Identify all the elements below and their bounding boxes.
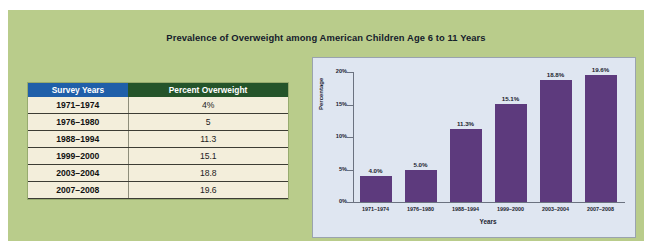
bar-group: 4.0% xyxy=(358,72,394,202)
plot-area: 4.0%5.0%11.3%15.1%18.8%19.6% xyxy=(353,72,623,202)
table-head: Survey Years Percent Overweight xyxy=(28,83,288,97)
slide-panel: Prevalence of Overweight among American … xyxy=(8,10,644,241)
cell-percent-overweight: 19.6 xyxy=(128,182,288,199)
y-axis-tick-label: 0% xyxy=(319,198,347,204)
cell-survey-years: 1999–2000 xyxy=(28,148,128,165)
y-axis-tick-label: 10% xyxy=(319,133,347,139)
table-header-survey-years: Survey Years xyxy=(28,83,128,97)
cell-percent-overweight: 4% xyxy=(128,97,288,114)
x-axis-line xyxy=(353,202,625,203)
x-axis-title: Years xyxy=(353,218,623,225)
table-header-percent-overweight: Percent Overweight xyxy=(128,83,288,97)
cell-survey-years: 2003–2004 xyxy=(28,165,128,182)
slide-root: Prevalence of Overweight among American … xyxy=(0,0,652,248)
bar xyxy=(360,176,392,202)
cell-survey-years: 1976–1980 xyxy=(28,114,128,131)
bar-value-label: 19.6% xyxy=(583,66,619,73)
cell-percent-overweight: 5 xyxy=(128,114,288,131)
cell-percent-overweight: 11.3 xyxy=(128,131,288,148)
table-row: 1988–1994 11.3 xyxy=(28,131,288,148)
bar-group: 11.3% xyxy=(448,72,484,202)
cell-survey-years: 1988–1994 xyxy=(28,131,128,148)
y-axis-tick-label: 15% xyxy=(319,101,347,107)
bar-group: 5.0% xyxy=(403,72,439,202)
bar-value-label: 15.1% xyxy=(493,95,529,102)
y-axis-tick-mark xyxy=(347,202,353,203)
table-row: 1999–2000 15.1 xyxy=(28,148,288,165)
table-row: 2007–2008 19.6 xyxy=(28,182,288,199)
table-row: 1971–1974 4% xyxy=(28,97,288,114)
prevalence-table: Survey Years Percent Overweight 1971–197… xyxy=(28,83,288,199)
bar xyxy=(450,129,482,202)
bar xyxy=(495,104,527,202)
page-title: Prevalence of Overweight among American … xyxy=(8,32,644,43)
table-header-row: Survey Years Percent Overweight xyxy=(28,83,288,97)
bar-group: 15.1% xyxy=(493,72,529,202)
bar-chart: Percentage 0%5%10%15%20% 4.0%5.0%11.3%15… xyxy=(312,57,636,238)
x-axis-tick-label: 2007–2008 xyxy=(575,206,627,212)
bar-group: 19.6% xyxy=(583,72,619,202)
table-row: 2003–2004 18.8 xyxy=(28,165,288,182)
cell-percent-overweight: 15.1 xyxy=(128,148,288,165)
table-row: 1976–1980 5 xyxy=(28,114,288,131)
bar-group: 18.8% xyxy=(538,72,574,202)
cell-percent-overweight: 18.8 xyxy=(128,165,288,182)
bar-value-label: 4.0% xyxy=(358,167,394,174)
table-body: 1971–1974 4% 1976–1980 5 1988–1994 11.3 … xyxy=(28,97,288,199)
bar xyxy=(540,80,572,202)
bar-value-label: 18.8% xyxy=(538,71,574,78)
y-axis-tick-label: 20% xyxy=(319,68,347,74)
cell-survey-years: 1971–1974 xyxy=(28,97,128,114)
bar xyxy=(585,75,617,202)
y-axis-tick-label: 5% xyxy=(319,166,347,172)
cell-survey-years: 2007–2008 xyxy=(28,182,128,199)
bar-value-label: 11.3% xyxy=(448,120,484,127)
bar xyxy=(405,170,437,203)
bar-value-label: 5.0% xyxy=(403,161,439,168)
